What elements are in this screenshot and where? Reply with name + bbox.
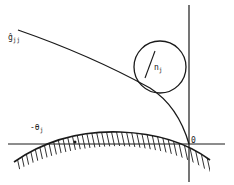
point-mark bbox=[74, 141, 77, 144]
curve-label-sub: jj bbox=[13, 36, 20, 43]
radius-label-sub: j bbox=[159, 66, 163, 73]
angle-label: -θj bbox=[30, 124, 43, 132]
radius-label: nj bbox=[154, 64, 162, 72]
diagram-canvas bbox=[0, 0, 234, 185]
boundary-arc bbox=[14, 132, 210, 162]
curve-label: ĝjj bbox=[8, 34, 20, 42]
origin-label: 0 bbox=[191, 137, 196, 145]
curve-g-jj bbox=[18, 30, 189, 144]
angle-label-sub: j bbox=[40, 126, 44, 133]
angle-label-main: -θ bbox=[30, 123, 40, 132]
